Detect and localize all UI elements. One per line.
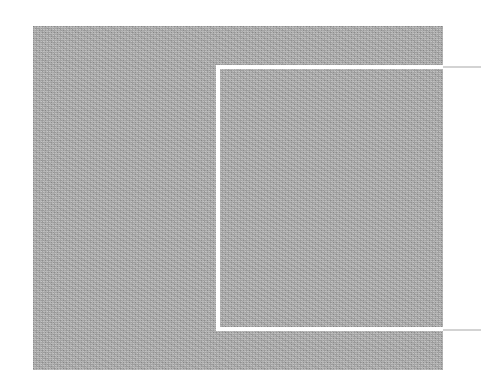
image-region-block[interactable] [33, 26, 443, 370]
texture-layer-checker [33, 26, 443, 370]
texture-layer-grain [33, 26, 443, 370]
texture-layer-diagonal [33, 26, 443, 370]
bottom-leader-line [443, 329, 481, 331]
top-leader-line [443, 66, 481, 68]
screenshot-canvas [0, 0, 482, 370]
